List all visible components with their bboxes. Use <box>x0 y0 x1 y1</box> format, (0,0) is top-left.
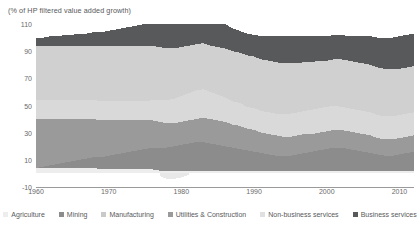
y-axis-tick: 30 <box>24 129 32 136</box>
x-axis-tick: 1990 <box>246 188 262 195</box>
y-axis-tick: 70 <box>24 75 32 82</box>
legend-item[interactable]: Business services <box>353 211 417 218</box>
y-axis-labels: 1109070503010-10 <box>4 24 32 187</box>
legend-item-label: Utilities & Construction <box>176 211 246 218</box>
legend-swatch-icon <box>168 212 173 217</box>
y-axis-tick: 110 <box>21 21 32 28</box>
negative-area-band <box>160 173 189 178</box>
legend-swatch-icon <box>59 212 64 217</box>
x-axis-tick: 2000 <box>319 188 335 195</box>
legend-item[interactable]: Utilities & Construction <box>168 211 246 218</box>
legend-item-label: Manufacturing <box>109 211 153 218</box>
legend-item[interactable]: Non-business services <box>260 211 338 218</box>
legend-swatch-icon <box>3 212 8 217</box>
chart-axis-title: (% of HP filtered value added growth) <box>8 6 131 15</box>
legend-swatch-icon <box>101 212 106 217</box>
x-axis-tick: 2010 <box>392 188 408 195</box>
plot-area <box>36 24 414 187</box>
plot-wrapper <box>36 24 414 187</box>
area-series-svg <box>36 24 414 187</box>
legend-item-label: Mining <box>67 211 88 218</box>
legend-item-label: Business services <box>361 211 417 218</box>
y-axis-tick: 90 <box>24 48 32 55</box>
stacked-area-chart: (% of HP filtered value added growth) 11… <box>0 0 420 229</box>
legend-item[interactable]: Mining <box>59 211 88 218</box>
legend-item[interactable]: Manufacturing <box>101 211 153 218</box>
legend-item-label: Non-business services <box>268 211 338 218</box>
legend-item-label: Agriculture <box>11 211 44 218</box>
y-axis-tick: 10 <box>24 156 32 163</box>
legend-item[interactable]: Agriculture <box>3 211 44 218</box>
y-axis-tick: 50 <box>24 102 32 109</box>
legend-swatch-icon <box>260 212 265 217</box>
chart-legend: AgricultureMiningManufacturingUtilities … <box>0 206 420 222</box>
x-axis-tick: 1980 <box>174 188 190 195</box>
x-axis-tick: 1970 <box>101 188 117 195</box>
x-axis-tick: 1960 <box>28 188 44 195</box>
x-axis-labels: 196019701980199020002010 <box>36 188 414 200</box>
legend-swatch-icon <box>353 212 358 217</box>
